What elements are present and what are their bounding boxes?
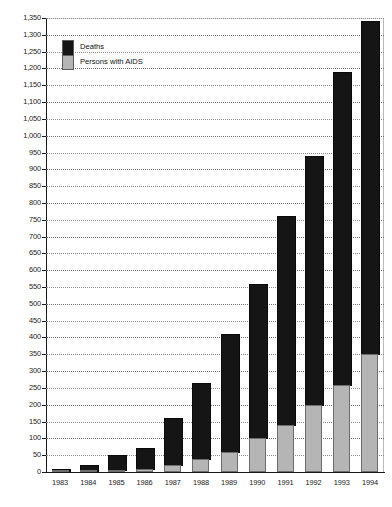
y-axis-tick-mark [42,153,46,154]
bar-segment-deaths [164,418,183,466]
y-axis-tick-label: 850 [1,183,41,190]
gridline [46,68,384,69]
legend-swatch-group [62,40,74,70]
legend-swatch-persons-with-aids [63,55,73,69]
bar-1984 [80,465,97,472]
bar-segment-persons-with-aids [221,452,238,472]
bar-1992 [305,156,322,472]
y-axis-tick-mark [42,186,46,187]
bar-segment-persons-with-aids [52,470,69,472]
y-axis-tick-mark [42,85,46,86]
bar-segment-persons-with-aids [333,385,350,472]
y-axis-tick-label: 1,050 [1,115,41,122]
y-axis-tick-mark [42,136,46,137]
y-axis-tick-mark [42,438,46,439]
y-axis-tick-mark [42,220,46,221]
y-axis-tick-mark [42,237,46,238]
bar-1983 [52,469,69,472]
bar-segment-persons-with-aids [80,470,97,472]
y-axis-tick-label: 900 [1,166,41,173]
y-axis-tick-label: 1,350 [1,14,41,21]
y-axis-tick-label: 1,000 [1,132,41,139]
y-axis-tick-mark [42,119,46,120]
bar-1993 [333,72,350,472]
bar-segment-persons-with-aids [277,425,294,472]
y-axis-tick-mark [42,52,46,53]
y-axis-tick-label: 300 [1,368,41,375]
bar-segment-persons-with-aids [305,405,322,472]
gridline [46,18,384,19]
bar-segment-deaths [305,156,324,406]
y-axis-tick-mark [42,455,46,456]
y-axis-tick-label: 700 [1,233,41,240]
y-axis-tick-mark [42,35,46,36]
y-axis-tick-label: 550 [1,283,41,290]
legend-label-deaths: Deaths [80,42,104,51]
bar-1987 [164,418,181,472]
y-axis-tick-mark [42,270,46,271]
y-axis-tick-label: 750 [1,216,41,223]
x-axis-tick-label: 1994 [352,478,388,487]
bar-segment-persons-with-aids [361,354,378,472]
bar-segment-persons-with-aids [249,438,266,472]
y-axis-tick-mark [42,304,46,305]
y-axis-tick-mark [42,169,46,170]
bar-1990 [249,284,266,472]
y-axis-tick-label: 100 [1,435,41,442]
y-axis-tick-mark [42,472,46,473]
y-axis-tick-mark [42,68,46,69]
bar-segment-deaths [192,383,211,460]
bar-1985 [108,455,125,472]
bar-segment-persons-with-aids [136,469,153,472]
y-axis-tick-label: 650 [1,250,41,257]
y-axis-tick-mark [42,405,46,406]
legend-label-persons-with-aids: Persons with AIDS [80,57,143,66]
y-axis-tick-label: 1,150 [1,82,41,89]
bar-segment-deaths [249,284,268,440]
y-axis-tick-label: 600 [1,267,41,274]
bar-segment-persons-with-aids [108,470,125,472]
y-axis-tick-label: 50 [1,452,41,459]
bar-segment-persons-with-aids [164,465,181,472]
y-axis-tick-label: 1,250 [1,48,41,55]
y-axis-tick-mark [42,253,46,254]
bar-1994 [361,21,378,472]
y-axis-tick-label: 200 [1,401,41,408]
y-axis-tick-label: 1,100 [1,98,41,105]
y-axis-tick-mark [42,354,46,355]
y-axis-tick-label: 500 [1,300,41,307]
bar-1989 [221,334,238,472]
chart-container: 0501001502002503003504004505005506006507… [0,0,392,507]
y-axis-tick-mark [42,102,46,103]
y-axis-tick-label: 800 [1,199,41,206]
bar-1986 [136,448,153,472]
y-axis-tick-mark [42,321,46,322]
bar-1991 [277,216,294,472]
y-axis-tick-mark [42,18,46,19]
y-axis-tick-label: 150 [1,418,41,425]
y-axis-tick-label: 1,300 [1,31,41,38]
bar-segment-deaths [333,72,352,386]
y-axis-tick-mark [42,371,46,372]
y-axis-tick-mark [42,388,46,389]
bar-segment-deaths [277,216,296,426]
y-axis-tick-mark [42,337,46,338]
y-axis-tick-label: 950 [1,149,41,156]
bar-segment-deaths [136,448,155,469]
y-axis-tick-label: 250 [1,384,41,391]
bar-segment-deaths [361,21,380,355]
y-axis-tick-label: 450 [1,317,41,324]
y-axis-tick-mark [42,203,46,204]
y-axis-tick-label: 350 [1,351,41,358]
y-axis-tick-label: 400 [1,334,41,341]
y-axis-tick-mark [42,287,46,288]
bar-segment-deaths [108,455,127,471]
y-axis-tick-mark [42,422,46,423]
bar-1988 [192,383,209,472]
bar-segment-persons-with-aids [192,459,209,472]
y-axis-tick-label: 1,200 [1,65,41,72]
gridline [46,35,384,36]
gridline [46,52,384,53]
bar-segment-deaths [221,334,240,453]
y-axis-tick-label: 0 [1,468,41,475]
